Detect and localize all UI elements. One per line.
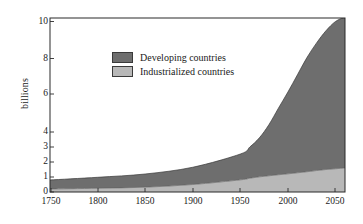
legend-swatch-industrialized (112, 66, 133, 77)
population-area-chart: billions 10 8 6 4 3 2 1 0 1750 1800 1850… (0, 0, 363, 224)
plot-area (0, 0, 363, 224)
stacked-areas (50, 17, 345, 192)
area-developing-countries (50, 17, 345, 189)
legend-swatch-developing (112, 52, 133, 63)
y-axis-ticks (50, 22, 54, 193)
legend-label-developing: Developing countries (140, 52, 226, 63)
legend-label-industrialized: Industrialized countries (140, 66, 234, 77)
